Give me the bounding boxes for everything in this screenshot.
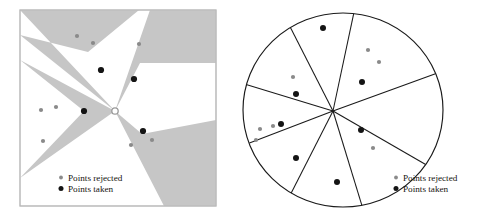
legend-rejected-label-right: Points rejected: [403, 173, 458, 183]
left-panel-legend: Points rejected Points taken: [59, 173, 123, 194]
right-taken-point-6: [293, 155, 299, 161]
right-rejected-point-2: [377, 60, 381, 64]
right-panel-legend: Points rejected Points taken: [394, 173, 458, 194]
left-panel: Points rejected Points taken: [20, 10, 216, 206]
left-rejected-point-2: [91, 41, 95, 45]
left-rejected-point-8: [150, 138, 154, 142]
right-rejected-point-5: [271, 124, 275, 128]
left-rejected-point-4: [39, 108, 43, 112]
right-rejected-point-3: [291, 75, 295, 79]
left-rejected-point-3: [137, 42, 141, 46]
left-rejected-point-7: [129, 143, 133, 147]
right-taken-point-1: [320, 25, 326, 31]
right-taken-point-7: [334, 179, 340, 185]
right-rejected-point-1: [366, 48, 370, 52]
left-taken-point-2: [131, 76, 137, 82]
legend-taken-marker-left: [59, 186, 64, 191]
legend-taken-marker-right: [394, 186, 399, 191]
right-rejected-point-6: [254, 138, 258, 142]
right-rejected-point-7: [371, 146, 375, 150]
left-taken-point-3: [81, 108, 87, 114]
right-rejected-point-4: [258, 127, 262, 131]
right-taken-point-5: [358, 127, 364, 133]
left-panel-center-open-circle: [112, 108, 118, 114]
legend-taken-label-right: Points taken: [403, 184, 449, 194]
right-taken-point-3: [359, 79, 365, 85]
legend-rejected-marker-right: [394, 176, 398, 180]
figure-root: Points rejected Points taken Points reje…: [0, 0, 486, 220]
left-taken-point-4: [140, 128, 146, 134]
legend-taken-label-left: Points taken: [68, 184, 114, 194]
left-taken-point-1: [98, 67, 104, 73]
left-rejected-point-5: [54, 105, 58, 109]
legend-rejected-label-left: Points rejected: [68, 173, 123, 183]
legend-rejected-marker-left: [59, 176, 63, 180]
left-rejected-point-1: [75, 34, 79, 38]
figure-canvas: Points rejected Points taken Points reje…: [0, 0, 486, 220]
left-rejected-point-6: [41, 139, 45, 143]
right-panel: Points rejected Points taken: [243, 13, 458, 207]
right-taken-point-4: [278, 121, 284, 127]
right-taken-point-2: [293, 91, 299, 97]
